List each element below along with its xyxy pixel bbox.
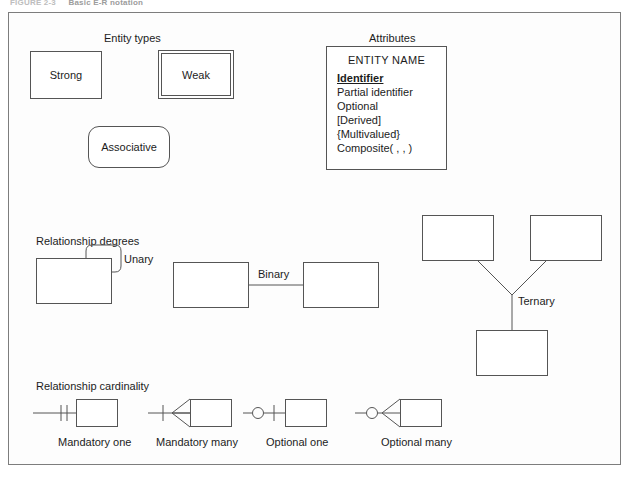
entity-weak-label: Weak [182, 69, 210, 81]
attribute-derived: [Derived] [337, 113, 446, 127]
attribute-composite: Composite( , , ) [337, 141, 446, 155]
section-heading-attributes: Attributes [369, 33, 415, 44]
degree-ternary-entity-topleft [422, 215, 494, 261]
degree-binary-label: Binary [258, 269, 289, 280]
degree-binary-entity-left [173, 262, 249, 308]
cardinality-mandatory-one-box [76, 399, 118, 427]
entity-associative: Associative [88, 126, 170, 168]
entity-strong-label: Strong [50, 69, 82, 81]
section-heading-relationship-cardinality: Relationship cardinality [36, 381, 149, 392]
attribute-identifier: Identifier [337, 71, 446, 85]
entity-associative-label: Associative [101, 141, 157, 153]
degree-unary-label: Unary [124, 254, 153, 265]
attribute-multivalued: {Multivalued} [337, 127, 446, 141]
figure-title: Basic E-R notation [68, 0, 143, 7]
cardinality-mandatory-many-box [190, 399, 232, 427]
cardinality-optional-many-label: Optional many [381, 437, 452, 448]
attribute-optional: Optional [337, 99, 446, 113]
figure-caption: FIGURE 2-3 Basic E-R notation [10, 0, 143, 7]
cardinality-mandatory-one-label: Mandatory one [58, 437, 131, 448]
attribute-list: Identifier Partial identifier Optional [… [327, 71, 446, 155]
section-heading-relationship-degrees: Relationship degrees [36, 236, 139, 247]
entity-strong: Strong [30, 51, 102, 99]
attribute-entity-name: ENTITY NAME [327, 54, 446, 66]
figure-number: FIGURE 2-3 [10, 0, 56, 7]
entity-weak: Weak [158, 50, 234, 99]
attribute-partial-identifier-row: Partial identifier [337, 85, 446, 99]
degree-ternary-entity-bottom [476, 330, 548, 376]
cardinality-optional-one-box [285, 399, 327, 427]
cardinality-mandatory-many-label: Mandatory many [156, 437, 238, 448]
figure-root: FIGURE 2-3 Basic E-R notation Entity typ… [0, 0, 631, 480]
attributes-panel: ENTITY NAME Identifier Partial identifie… [326, 46, 447, 170]
degree-ternary-label: Ternary [518, 296, 555, 307]
degree-ternary-entity-topright [530, 215, 602, 261]
section-heading-entity-types: Entity types [104, 33, 161, 44]
attribute-partial-identifier: Partial identifier [337, 86, 413, 98]
degree-unary-entity [36, 258, 112, 304]
degree-binary-entity-right [303, 262, 379, 308]
cardinality-optional-many-box [400, 399, 442, 427]
cardinality-optional-one-label: Optional one [266, 437, 328, 448]
